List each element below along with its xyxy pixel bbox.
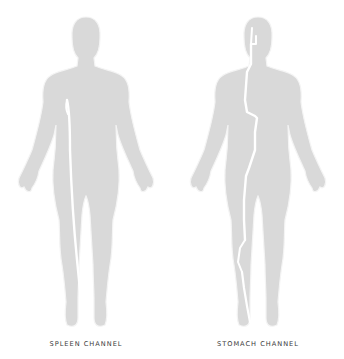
stomach-channel-figure: STOMACH CHANNEL xyxy=(172,0,344,359)
figure-caption: SPLEEN CHANNEL xyxy=(0,340,172,348)
body-silhouette-icon xyxy=(172,0,344,340)
figure-caption: STOMACH CHANNEL xyxy=(172,340,344,348)
spleen-channel-figure: SPLEEN CHANNEL xyxy=(0,0,172,359)
body-silhouette-icon xyxy=(0,0,172,340)
